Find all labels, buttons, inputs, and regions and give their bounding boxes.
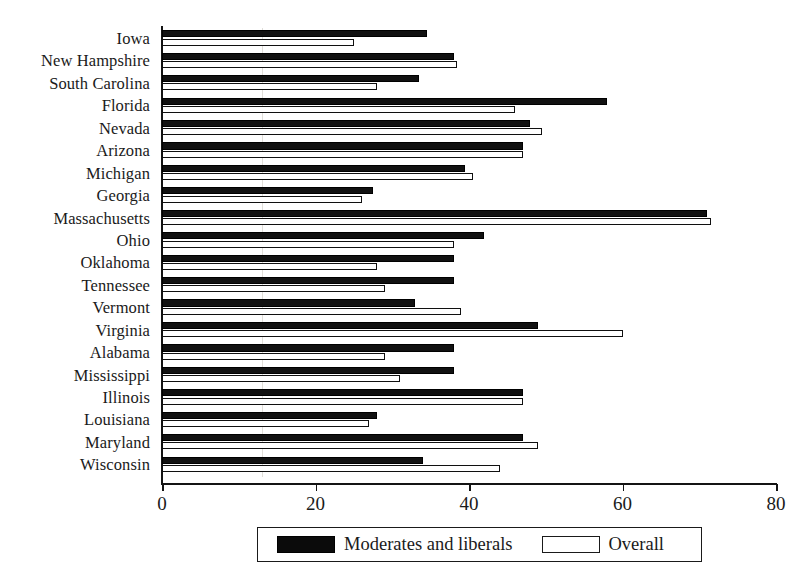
bar-overall (162, 106, 515, 113)
bar-row (162, 73, 776, 95)
bar-moderates-and-liberals (162, 210, 707, 217)
bar-moderates-and-liberals (162, 322, 538, 329)
legend-label: Moderates and liberals (344, 534, 513, 555)
category-label: Louisiana (0, 409, 156, 431)
legend-label: Overall (609, 534, 664, 555)
bar-row (162, 252, 776, 274)
bar-row (162, 185, 776, 207)
bar-overall (162, 128, 542, 135)
chart-legend: Moderates and liberals Overall (257, 527, 702, 562)
category-label: Tennessee (0, 275, 156, 297)
bar-overall (162, 83, 377, 90)
x-tick-label: 20 (306, 493, 325, 515)
bar-row (162, 208, 776, 230)
bar-overall (162, 465, 500, 472)
black-swatch-icon (277, 536, 335, 553)
bar-moderates-and-liberals (162, 187, 373, 194)
bar-overall (162, 420, 369, 427)
bar-overall (162, 353, 385, 360)
bar-row (162, 387, 776, 409)
category-label: Illinois (0, 387, 156, 409)
bar-row (162, 454, 776, 476)
bar-overall (162, 39, 354, 46)
bar-moderates-and-liberals (162, 142, 523, 149)
x-tick-label: 80 (767, 493, 786, 515)
bar-row (162, 297, 776, 319)
bar-overall (162, 442, 538, 449)
bar-row (162, 342, 776, 364)
bar-row (162, 28, 776, 50)
bar-row (162, 140, 776, 162)
plot-area (162, 28, 776, 483)
bar-moderates-and-liberals (162, 299, 415, 306)
bar-moderates-and-liberals (162, 75, 419, 82)
category-label: Georgia (0, 185, 156, 207)
category-label: South Carolina (0, 73, 156, 95)
bar-row (162, 365, 776, 387)
category-label: Maryland (0, 432, 156, 454)
x-tick-mark (776, 484, 778, 491)
bar-row (162, 275, 776, 297)
bar-moderates-and-liberals (162, 30, 427, 37)
bar-moderates-and-liberals (162, 389, 523, 396)
category-label: Alabama (0, 342, 156, 364)
category-label: Virginia (0, 320, 156, 342)
bar-overall (162, 173, 473, 180)
bar-overall (162, 151, 523, 158)
bar-row (162, 409, 776, 431)
category-label: Michigan (0, 163, 156, 185)
bar-moderates-and-liberals (162, 255, 454, 262)
bar-overall (162, 61, 457, 68)
bar-overall (162, 330, 623, 337)
category-label: Nevada (0, 118, 156, 140)
bar-row (162, 320, 776, 342)
x-tick-label: 40 (460, 493, 479, 515)
bar-overall (162, 263, 377, 270)
category-label: Wisconsin (0, 454, 156, 476)
horizontal-bar-chart: IowaNew HampshireSouth CarolinaFloridaNe… (0, 0, 808, 587)
bar-overall (162, 241, 454, 248)
category-label: Oklahoma (0, 252, 156, 274)
bar-moderates-and-liberals (162, 53, 454, 60)
bar-moderates-and-liberals (162, 434, 523, 441)
bar-overall (162, 196, 362, 203)
x-tick-mark (316, 484, 318, 491)
category-label: Iowa (0, 28, 156, 50)
bar-moderates-and-liberals (162, 457, 423, 464)
bar-moderates-and-liberals (162, 165, 465, 172)
category-label: New Hampshire (0, 50, 156, 72)
x-tick-label: 60 (613, 493, 632, 515)
white-swatch-icon (542, 536, 600, 553)
x-tick-mark (623, 484, 625, 491)
category-label: Arizona (0, 140, 156, 162)
category-label: Florida (0, 95, 156, 117)
bar-moderates-and-liberals (162, 367, 454, 374)
bar-moderates-and-liberals (162, 98, 607, 105)
bar-row (162, 230, 776, 252)
legend-entry-moderates-and-liberals: Moderates and liberals (277, 528, 513, 561)
legend-entry-overall: Overall (542, 528, 664, 561)
bar-row (162, 163, 776, 185)
bar-moderates-and-liberals (162, 412, 377, 419)
x-tick-label: 0 (157, 493, 167, 515)
bar-overall (162, 285, 385, 292)
bar-rows (162, 28, 776, 477)
bar-overall (162, 375, 400, 382)
bar-overall (162, 218, 711, 225)
category-label: Ohio (0, 230, 156, 252)
category-label: Mississippi (0, 365, 156, 387)
bar-overall (162, 308, 461, 315)
bar-moderates-and-liberals (162, 277, 454, 284)
bar-moderates-and-liberals (162, 120, 530, 127)
bar-overall (162, 398, 523, 405)
category-label: Vermont (0, 297, 156, 319)
bar-row (162, 118, 776, 140)
bar-moderates-and-liberals (162, 344, 454, 351)
bar-row (162, 432, 776, 454)
bar-row (162, 50, 776, 72)
x-tick-mark (162, 484, 164, 491)
x-tick-mark (469, 484, 471, 491)
bar-moderates-and-liberals (162, 232, 484, 239)
x-axis-ticks: 020406080 (162, 484, 776, 524)
category-axis-labels: IowaNew HampshireSouth CarolinaFloridaNe… (0, 28, 156, 477)
